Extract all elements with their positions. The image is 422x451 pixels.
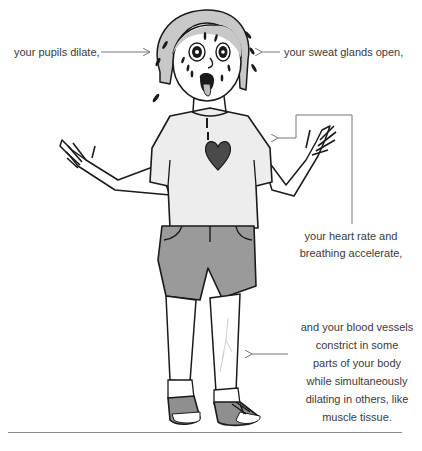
shirt (150, 108, 272, 228)
callout-heart-line: your heart rate and (290, 228, 412, 245)
left-sock (168, 380, 194, 398)
callout-vessels-line: constrict in some (296, 336, 418, 354)
callout-vessels-line: while simultaneously (296, 372, 418, 390)
callout-vessels-line: muscle tissue. (296, 408, 418, 426)
callout-vessels-line: parts of your body (296, 354, 418, 372)
callout-heart-line: breathing accelerate, (290, 245, 412, 262)
callout-vessels-line: and your blood vessels (296, 318, 418, 336)
callout-vessels-line: dilating in others, like (296, 390, 418, 408)
callout-pupils: your pupils dilate, (14, 44, 100, 61)
callout-sweat-glands: your sweat glands open, (284, 44, 403, 61)
callout-blood-vessels: and your blood vessels constrict in some… (296, 318, 418, 426)
left-leg (166, 296, 196, 382)
callout-heart-rate: your heart rate and breathing accelerate… (290, 228, 412, 262)
bottom-divider (8, 432, 402, 433)
heart-arrow (278, 115, 352, 224)
